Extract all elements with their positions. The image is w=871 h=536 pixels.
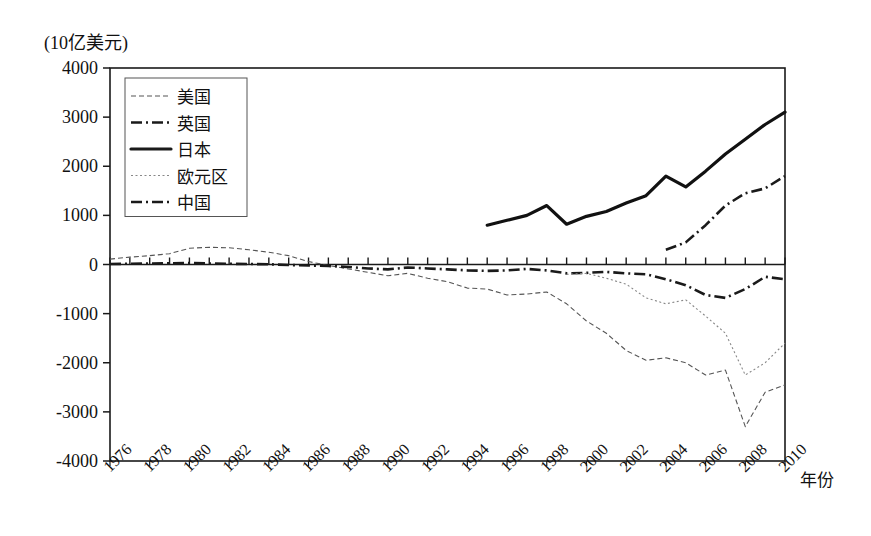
legend-label-美国: 美国: [177, 88, 211, 107]
y-tick-label: 2000: [62, 156, 98, 176]
x-tick-label: 2008: [735, 440, 770, 475]
legend-label-中国: 中国: [177, 194, 211, 213]
legend-label-日本: 日本: [177, 141, 211, 160]
series-line-美国: [110, 247, 785, 426]
x-tick-label: 2006: [696, 440, 731, 475]
x-tick-label: 1976: [100, 440, 135, 475]
chart-figure: (10亿美元) 年份 40003000200010000-1000-2000-3…: [0, 0, 871, 536]
chart-legend: 美国英国日本欧元区中国: [125, 78, 247, 217]
y-tick-label: 0: [89, 255, 98, 275]
series-line-日本: [487, 112, 785, 225]
x-tick-label: 2004: [656, 440, 691, 475]
y-tick-label: 3000: [62, 107, 98, 127]
x-tick-label: 2002: [616, 440, 651, 475]
chart-plot-area: 40003000200010000-1000-2000-3000-4000 19…: [0, 0, 871, 536]
data-series-group: [110, 112, 785, 426]
series-line-英国: [110, 263, 785, 298]
x-tick-label: 1998: [537, 440, 572, 475]
x-tick-label: 1986: [299, 440, 334, 475]
x-axis-title: 年份: [800, 466, 834, 491]
x-tick-label: 1978: [140, 440, 175, 475]
legend-label-英国: 英国: [177, 115, 211, 134]
y-tick-label: -3000: [56, 402, 98, 422]
x-tick-label: 1996: [497, 440, 532, 475]
y-axis-ticks: 40003000200010000-1000-2000-3000-4000: [56, 58, 110, 471]
x-axis-ticks: 1976197819801982198419861988199019921994…: [100, 258, 810, 476]
x-tick-label: 1992: [418, 440, 453, 475]
x-tick-label: 1994: [457, 440, 492, 475]
x-tick-label: 1982: [219, 440, 254, 475]
y-axis-unit-label: (10亿美元): [44, 28, 128, 54]
y-tick-label: -1000: [56, 304, 98, 324]
legend-label-欧元区: 欧元区: [177, 168, 228, 187]
y-tick-label: 4000: [62, 58, 98, 78]
y-tick-label: -2000: [56, 353, 98, 373]
y-tick-label: 1000: [62, 205, 98, 225]
x-tick-label: 1984: [259, 440, 294, 475]
x-tick-label: 1980: [180, 440, 215, 475]
x-tick-label: 2000: [577, 440, 612, 475]
x-tick-label: 1990: [378, 440, 413, 475]
x-tick-label: 1988: [338, 440, 373, 475]
y-tick-label: -4000: [56, 451, 98, 471]
